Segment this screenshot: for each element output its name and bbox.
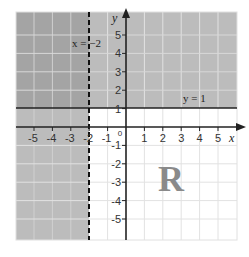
origin-label: 0 [118, 129, 123, 138]
y-tick-label: 1 [115, 103, 121, 115]
x-tick-label: -3 [65, 132, 75, 144]
x-tick-label: -2 [83, 132, 93, 144]
y-axis-label: y [111, 11, 118, 25]
inequality-graph: -5 -4 -3 -2 -1 1 2 3 4 5 0 5 4 3 2 1 -1 … [0, 0, 249, 257]
x-tick-label: -1 [102, 132, 112, 144]
region-r-label: R [158, 159, 185, 199]
x-tick-label: 2 [160, 132, 166, 144]
y-tick-label: 3 [115, 66, 121, 78]
x-tick-label: 4 [197, 132, 203, 144]
y-tick-label: -5 [111, 213, 121, 225]
label-x-equals-neg2: x = −2 [72, 37, 101, 49]
y-tick-label: -1 [111, 139, 121, 151]
x-axis-label: x [228, 131, 235, 145]
x-axis-arrow-icon [236, 123, 246, 131]
y-tick-label: -3 [111, 176, 121, 188]
x-tick-label: -5 [28, 132, 38, 144]
y-tick-label: 4 [115, 47, 121, 59]
y-tick-label: -2 [111, 158, 121, 170]
y-tick-label: -4 [111, 195, 121, 207]
y-tick-label: 5 [115, 29, 121, 41]
x-tick-label: -4 [47, 132, 57, 144]
x-tick-label: 3 [178, 132, 184, 144]
label-y-equals-1: y = 1 [183, 92, 206, 104]
y-tick-label: 2 [115, 84, 121, 96]
x-tick-label: 5 [215, 132, 221, 144]
x-tick-label: 1 [141, 132, 147, 144]
